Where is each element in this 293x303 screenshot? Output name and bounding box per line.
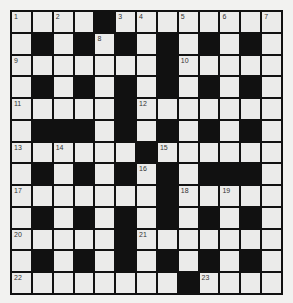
crossword-cell[interactable]: 3 [116, 12, 135, 32]
crossword-cell[interactable]: 18 [179, 186, 198, 206]
crossword-cell[interactable]: 7 [262, 12, 281, 32]
crossword-cell[interactable] [33, 12, 52, 32]
crossword-cell[interactable] [200, 56, 219, 76]
crossword-cell[interactable] [54, 186, 73, 206]
crossword-cell[interactable] [54, 208, 73, 228]
crossword-cell[interactable] [116, 186, 135, 206]
crossword-cell[interactable] [33, 186, 52, 206]
crossword-cell[interactable] [116, 273, 135, 293]
crossword-cell[interactable] [220, 273, 239, 293]
crossword-cell[interactable] [262, 56, 281, 76]
crossword-cell[interactable] [262, 99, 281, 119]
crossword-cell[interactable] [137, 251, 156, 271]
crossword-cell[interactable] [241, 143, 260, 163]
crossword-cell[interactable] [54, 77, 73, 97]
crossword-cell[interactable] [262, 77, 281, 97]
crossword-cell[interactable] [220, 208, 239, 228]
crossword-cell[interactable] [241, 56, 260, 76]
crossword-cell[interactable] [95, 186, 114, 206]
crossword-cell[interactable] [12, 208, 31, 228]
crossword-cell[interactable]: 20 [12, 230, 31, 250]
crossword-cell[interactable] [200, 186, 219, 206]
crossword-cell[interactable] [179, 77, 198, 97]
crossword-cell[interactable] [200, 12, 219, 32]
crossword-cell[interactable] [262, 230, 281, 250]
crossword-cell[interactable] [262, 186, 281, 206]
crossword-cell[interactable]: 13 [12, 143, 31, 163]
crossword-cell[interactable] [137, 77, 156, 97]
crossword-cell[interactable] [33, 230, 52, 250]
crossword-cell[interactable] [12, 251, 31, 271]
crossword-cell[interactable]: 15 [158, 143, 177, 163]
crossword-cell[interactable] [137, 56, 156, 76]
crossword-cell[interactable] [54, 273, 73, 293]
crossword-cell[interactable] [116, 143, 135, 163]
crossword-cell[interactable] [12, 77, 31, 97]
crossword-cell[interactable] [75, 12, 94, 32]
crossword-cell[interactable] [262, 273, 281, 293]
crossword-cell[interactable] [262, 208, 281, 228]
crossword-cell[interactable] [262, 34, 281, 54]
crossword-cell[interactable] [54, 230, 73, 250]
crossword-cell[interactable]: 12 [137, 99, 156, 119]
crossword-cell[interactable]: 1 [12, 12, 31, 32]
crossword-cell[interactable]: 14 [54, 143, 73, 163]
crossword-cell[interactable] [137, 121, 156, 141]
crossword-cell[interactable] [241, 99, 260, 119]
crossword-cell[interactable] [262, 121, 281, 141]
crossword-cell[interactable] [95, 121, 114, 141]
crossword-cell[interactable] [220, 251, 239, 271]
crossword-cell[interactable] [33, 273, 52, 293]
crossword-cell[interactable] [33, 56, 52, 76]
crossword-cell[interactable] [12, 121, 31, 141]
crossword-cell[interactable] [137, 208, 156, 228]
crossword-cell[interactable] [179, 230, 198, 250]
crossword-cell[interactable] [54, 34, 73, 54]
crossword-cell[interactable] [220, 77, 239, 97]
crossword-cell[interactable] [54, 99, 73, 119]
crossword-cell[interactable]: 6 [220, 12, 239, 32]
crossword-cell[interactable] [158, 99, 177, 119]
crossword-cell[interactable] [116, 56, 135, 76]
crossword-cell[interactable] [95, 99, 114, 119]
crossword-cell[interactable] [179, 34, 198, 54]
crossword-cell[interactable] [75, 230, 94, 250]
crossword-cell[interactable] [33, 143, 52, 163]
crossword-cell[interactable]: 5 [179, 12, 198, 32]
crossword-cell[interactable] [241, 186, 260, 206]
crossword-cell[interactable]: 8 [95, 34, 114, 54]
crossword-cell[interactable] [95, 273, 114, 293]
crossword-cell[interactable]: 9 [12, 56, 31, 76]
crossword-cell[interactable] [220, 34, 239, 54]
crossword-cell[interactable] [12, 34, 31, 54]
crossword-cell[interactable] [179, 143, 198, 163]
crossword-cell[interactable] [158, 230, 177, 250]
crossword-cell[interactable] [137, 273, 156, 293]
crossword-cell[interactable]: 22 [12, 273, 31, 293]
crossword-cell[interactable]: 2 [54, 12, 73, 32]
crossword-cell[interactable] [241, 230, 260, 250]
crossword-cell[interactable] [179, 121, 198, 141]
crossword-cell[interactable] [262, 164, 281, 184]
crossword-cell[interactable] [75, 56, 94, 76]
crossword-cell[interactable]: 11 [12, 99, 31, 119]
crossword-cell[interactable] [95, 251, 114, 271]
crossword-cell[interactable] [241, 273, 260, 293]
crossword-cell[interactable] [179, 164, 198, 184]
crossword-cell[interactable] [54, 164, 73, 184]
crossword-cell[interactable]: 23 [200, 273, 219, 293]
crossword-cell[interactable]: 10 [179, 56, 198, 76]
crossword-cell[interactable] [220, 143, 239, 163]
crossword-cell[interactable] [33, 99, 52, 119]
crossword-cell[interactable] [158, 12, 177, 32]
crossword-cell[interactable] [12, 164, 31, 184]
crossword-cell[interactable] [179, 99, 198, 119]
crossword-cell[interactable] [179, 208, 198, 228]
crossword-cell[interactable] [95, 56, 114, 76]
crossword-cell[interactable] [95, 77, 114, 97]
crossword-cell[interactable] [179, 251, 198, 271]
crossword-cell[interactable]: 21 [137, 230, 156, 250]
crossword-cell[interactable] [75, 186, 94, 206]
crossword-cell[interactable]: 19 [220, 186, 239, 206]
crossword-cell[interactable] [54, 56, 73, 76]
